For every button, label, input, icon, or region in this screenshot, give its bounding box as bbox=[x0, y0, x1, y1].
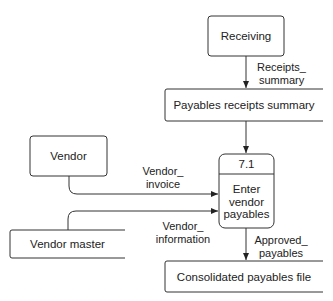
receipts-summary-flow-label: Receipts_ summary bbox=[257, 61, 306, 87]
process-label: Enter vendor payables bbox=[219, 183, 274, 221]
flow-label-line: Vendor_ bbox=[138, 165, 188, 178]
payables-receipts-summary-label: Payables receipts summary bbox=[165, 89, 323, 121]
consolidated-payables-file-label: Consolidated payables file bbox=[165, 261, 323, 292]
process-label-line-1: Enter bbox=[219, 183, 274, 196]
flow-label-line: payables bbox=[253, 247, 309, 260]
vendor-master-label: Vendor master bbox=[10, 230, 125, 258]
flow-label-line: Approved_ bbox=[253, 234, 309, 247]
vendor-entity-label: Vendor bbox=[30, 136, 107, 176]
flow-label-line: summary bbox=[257, 74, 306, 87]
process-number: 7.1 bbox=[219, 154, 274, 174]
process-label-line-3: payables bbox=[219, 208, 274, 221]
vendor-invoice-flow-label: Vendor_ invoice bbox=[138, 165, 188, 191]
flow-label-line: information bbox=[154, 233, 212, 246]
flow-label-line: invoice bbox=[138, 178, 188, 191]
approved-payables-flow-label: Approved_ payables bbox=[253, 234, 309, 260]
flow-label-line: Vendor_ bbox=[154, 220, 212, 233]
vendor-information-flow-label: Vendor_ information bbox=[154, 220, 212, 246]
flow-label-line: Receipts_ bbox=[257, 61, 306, 74]
process-label-line-2: vendor bbox=[219, 196, 274, 209]
receiving-entity-label: Receiving bbox=[208, 16, 284, 56]
